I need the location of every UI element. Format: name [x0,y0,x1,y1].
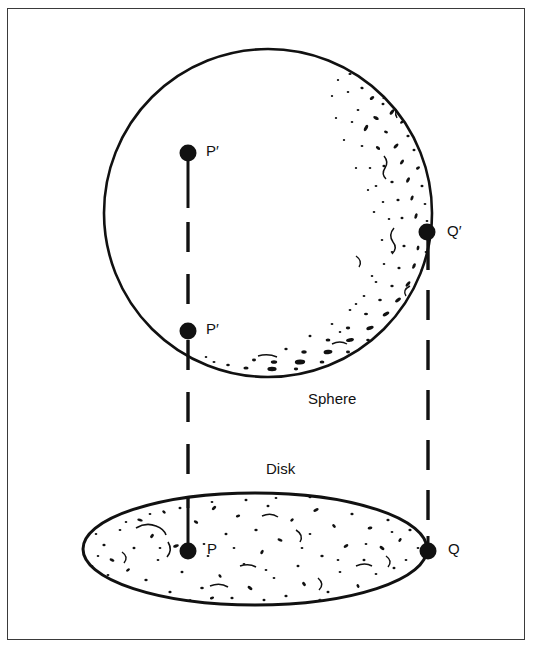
label-q-disk: Q [448,541,460,556]
label-sphere: Sphere [308,391,356,406]
point-marker-p-prime-bottom [180,323,197,340]
label-p-disk: P [207,541,217,556]
sphere-shape [104,49,432,377]
label-p-prime-top: P′ [206,143,219,158]
point-marker-q-disk [420,543,437,560]
label-disk: Disk [266,461,295,476]
point-marker-p-prime-top [180,145,197,162]
point-marker-p-disk [180,543,197,560]
label-q-prime: Q′ [447,223,461,238]
figure-root: P′ P′ Q′ P Q Sphere Disk [0,0,539,653]
label-p-prime-bottom: P′ [206,321,219,336]
point-marker-q-prime [419,224,436,241]
disk-shape [83,493,427,605]
